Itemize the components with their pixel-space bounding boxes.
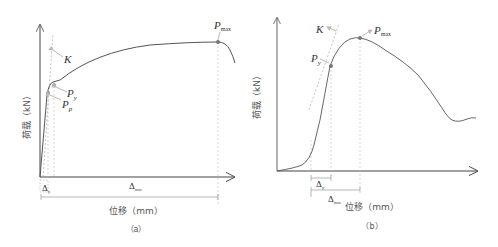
label-p-y: Py <box>310 52 322 67</box>
y-axis-label-a: 荷载（kN） <box>21 91 32 139</box>
label-k: K <box>315 23 324 35</box>
label-k: K <box>63 53 72 65</box>
caption-b: （b） <box>361 222 382 231</box>
caption-a: （a） <box>126 225 147 234</box>
label-delta-max: Δmax <box>129 181 142 192</box>
label-delta-y: Δy <box>42 183 51 194</box>
label-delta-max: Δmax <box>328 194 341 205</box>
point-p-y <box>329 64 333 68</box>
point-p-max <box>358 36 362 40</box>
label-p-p: Pp <box>61 98 73 113</box>
label-p-max: Pmax <box>373 24 391 37</box>
point-p-max <box>216 40 220 44</box>
x-axis-label-a: 位移（mm） <box>109 205 163 216</box>
y-axis-label-b: 荷载（kN） <box>251 71 262 119</box>
load-displacement-curve-b <box>277 38 476 171</box>
point-p-y <box>52 83 56 87</box>
label-delta-y: Δy <box>316 179 325 190</box>
point-p-p <box>46 91 50 95</box>
panel-b: K Pmax Py 荷载（kN） Δy Δmax 位移（mm） （b） <box>251 18 477 231</box>
label-p-max: Pmax <box>213 19 231 32</box>
x-axis-label-b: 位移（mm） <box>345 201 399 212</box>
panel-a: K Py Pp Pmax 荷载（kN） Δy Δmax 位移（mm） （a） <box>21 19 235 234</box>
